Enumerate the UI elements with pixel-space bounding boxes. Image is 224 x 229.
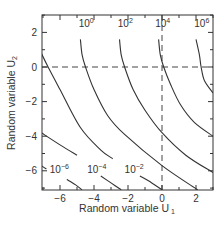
contour-label: 10−6 [50, 163, 69, 175]
contour-label: 102 [118, 17, 133, 29]
axes: −6−4−202−6−4−202 [26, 15, 213, 204]
x-tick-label: −6 [54, 193, 66, 204]
contour-line-tail [140, 176, 162, 190]
contour-line-tail [67, 179, 82, 189]
y-tick-label: 2 [31, 27, 37, 38]
contour-label: 100 [79, 17, 94, 29]
contour-line [196, 39, 213, 93]
x-axis-label: Random variable U​1 [79, 202, 175, 215]
contour-chart: 10610410210010−210−410−6 −6−4−202−6−4−20… [0, 0, 224, 229]
x-tick-label: 2 [193, 193, 199, 204]
contour-label: 106 [194, 17, 209, 29]
y-tick-label: 0 [31, 62, 37, 73]
y-axis-label: Random variable U2 [5, 56, 18, 150]
plot-area: 10610410210010−210−410−6 [41, 15, 213, 190]
y-tick-label: −6 [26, 165, 38, 176]
contour-label: 104 [155, 17, 170, 29]
y-tick-label: −4 [26, 131, 38, 142]
y-axis-label-sub: 2 [11, 56, 18, 60]
contour-label: 10−4 [87, 163, 106, 175]
x-axis-label-sub: 1 [171, 208, 175, 215]
contour-line [120, 39, 214, 172]
contour-line [159, 39, 213, 136]
y-tick-label: −2 [26, 96, 38, 107]
contour-label: 10−2 [125, 163, 144, 175]
